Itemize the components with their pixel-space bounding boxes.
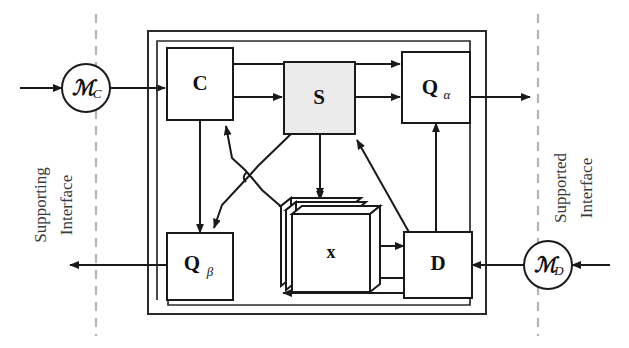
- diagram-canvas: C S Q α Q β D x ℳ C: [0, 0, 629, 348]
- label-supported-line2: Interface: [577, 158, 596, 218]
- block-x-label: x: [327, 242, 336, 262]
- block-q-alpha[interactable]: Q α: [402, 52, 470, 123]
- label-supporting-interface: Supporting Interface: [31, 167, 76, 243]
- block-q-beta-label: Q: [184, 251, 200, 275]
- block-s[interactable]: S: [284, 62, 355, 134]
- block-c[interactable]: C: [167, 48, 233, 120]
- block-diagram-svg: C S Q α Q β D x ℳ C: [0, 0, 629, 348]
- block-c-label: C: [192, 71, 207, 95]
- node-md[interactable]: ℳ D: [524, 241, 572, 289]
- label-supported-interface: Supported Interface: [551, 153, 596, 223]
- wire-crossing-hop: [244, 172, 247, 182]
- block-q-alpha-label: Q: [422, 75, 438, 99]
- block-q-beta[interactable]: Q β: [167, 233, 233, 300]
- node-md-subscript: D: [553, 263, 564, 278]
- block-q-beta-subscript: β: [206, 264, 214, 279]
- block-q-alpha-subscript: α: [444, 87, 452, 102]
- block-d[interactable]: D: [404, 232, 472, 298]
- label-supporting-line1: Supporting: [31, 167, 50, 243]
- label-supported-line1: Supported: [551, 153, 570, 223]
- block-x-stack[interactable]: x: [281, 198, 380, 292]
- label-supporting-line2: Interface: [57, 175, 76, 235]
- node-mc-subscript: C: [93, 86, 102, 101]
- block-d-label: D: [430, 251, 445, 275]
- block-s-label: S: [313, 85, 325, 109]
- node-mc[interactable]: ℳ C: [62, 64, 110, 112]
